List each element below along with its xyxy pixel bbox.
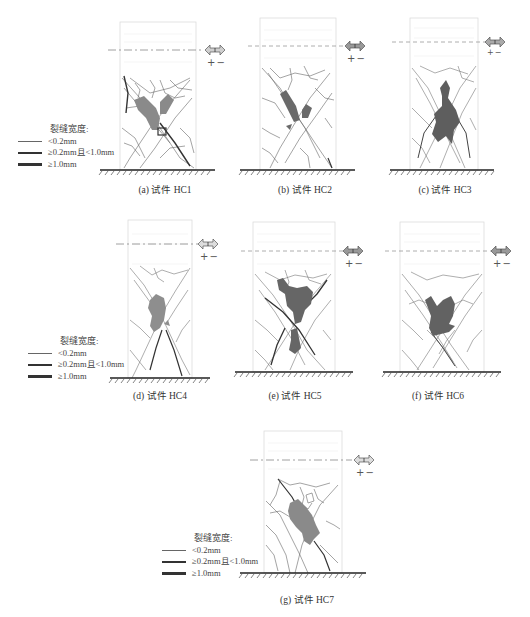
panel-hc1: +− (a) 试件 HC1 [100,18,230,198]
panel-hc3: +− (c) 试件 HC3 [390,18,520,198]
damage-area-hc1 [134,94,174,130]
caption-hc5: (e) 试件 HC5 [240,388,350,402]
double-arrow-icon [343,246,363,256]
sign-convention: +− [207,57,226,68]
caption-hc2: (b) 试件 HC2 [250,182,360,196]
double-arrow-icon [198,239,218,249]
panel-hc7: +− (g) 试件 HC7 [240,425,390,610]
double-arrow-icon [345,41,365,51]
sign-convention: +− [345,258,364,269]
legend-item-medium: ≥0.2mm且<1.0mm [28,359,124,371]
crack-pattern-hc5 [235,220,365,380]
damage-area-hc3 [432,80,460,144]
crack-pattern-hc2 [240,18,370,178]
caption-hc7: (g) 试件 HC7 [252,592,362,606]
damage-area-hc2 [280,90,312,130]
caption-hc6: (f) 试件 HC6 [383,388,493,402]
legend-item-thick: ≥1.0mm [162,568,258,580]
damage-area-hc6 [425,296,455,336]
crack-pattern-hc4 [110,220,230,380]
damage-area-hc7 [288,499,320,545]
caption-hc3: (c) 试件 HC3 [390,182,500,196]
caption-hc4: (d) 试件 HC4 [110,388,210,402]
legend-item-medium: ≥0.2mm且<1.0mm [162,556,258,568]
caption-hc1: (a) 试件 HC1 [110,182,220,196]
crack-pattern-hc6 [383,220,513,380]
legend-item-thin: <0.2mm [18,136,114,148]
legend-item-thin: <0.2mm [28,348,124,360]
sign-convention: +− [347,53,366,64]
panel-hc5: +− (e) 试件 HC5 [235,220,365,400]
crack-pattern-hc1 [100,18,230,178]
legend-item-thin: <0.2mm [162,545,258,557]
legend-item-thick: ≥1.0mm [28,371,124,383]
double-arrow-icon [354,455,374,465]
legend-row2: 裂缝宽度: <0.2mm ≥0.2mm且<1.0mm ≥1.0mm [28,336,124,382]
sign-convention: +− [493,258,512,269]
damage-area-hc4 [148,294,170,332]
legend-title: 裂缝宽度: [162,533,258,545]
panel-hc6: +− (f) 试件 HC6 [383,220,513,400]
crack-pattern-hc7 [240,425,390,590]
legend-row1: 裂缝宽度: <0.2mm ≥0.2mm且<1.0mm ≥1.0mm [18,124,114,170]
double-arrow-icon [491,246,511,256]
double-arrow-icon [205,45,225,55]
legend-item-medium: ≥0.2mm且<1.0mm [18,147,114,159]
panel-hc4: +− (d) 试件 HC4 [110,220,230,400]
sign-convention: +− [487,48,502,57]
legend-row3: 裂缝宽度: <0.2mm ≥0.2mm且<1.0mm ≥1.0mm [162,533,258,579]
double-arrow-icon [485,37,505,47]
crack-pattern-hc3 [390,18,520,178]
sign-convention: +− [200,251,219,262]
sign-convention: +− [356,467,375,478]
legend-title: 裂缝宽度: [28,336,124,348]
panel-hc2: +− (b) 试件 HC2 [240,18,370,198]
legend-item-thick: ≥1.0mm [18,159,114,171]
legend-title: 裂缝宽度: [18,124,114,136]
